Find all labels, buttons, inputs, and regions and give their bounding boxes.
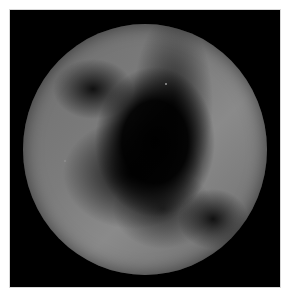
circular-disk-image — [23, 24, 267, 275]
bright-speck — [64, 160, 66, 162]
bright-speck — [165, 83, 167, 85]
